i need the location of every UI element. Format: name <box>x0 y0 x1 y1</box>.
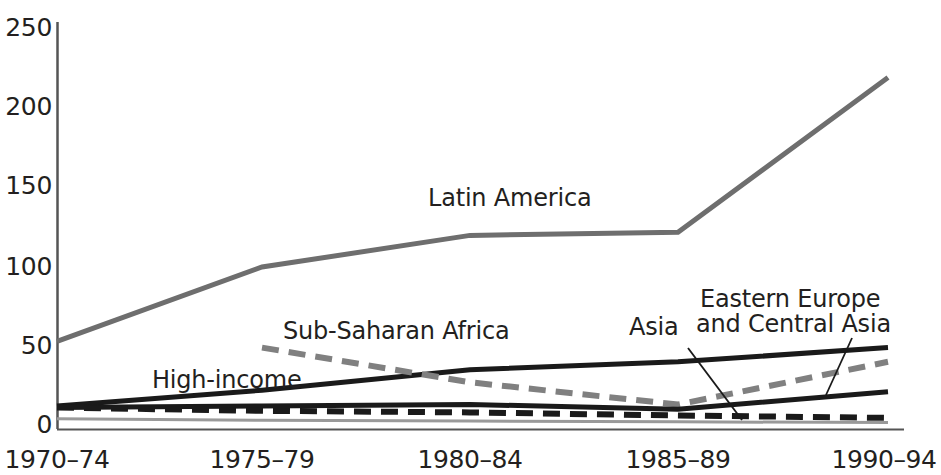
series-label-asia: Asia <box>629 313 679 341</box>
leader-line-1 <box>826 338 852 395</box>
series-label-latin-america: Latin America <box>428 184 591 212</box>
series-label-high-income: High-income <box>152 366 302 394</box>
series-label-eastern-europe-line1: Eastern Europe <box>700 285 880 313</box>
series-line-eastern-europe-and-central-asia <box>57 408 888 418</box>
series-label-eastern-europe-line2: and Central Asia <box>696 310 891 338</box>
series-label-sub-saharan-africa: Sub-Saharan Africa <box>283 317 509 345</box>
